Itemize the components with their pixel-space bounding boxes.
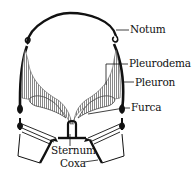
thorax-diagram: Notum Pleurodema Pleuron Furca Sternum C…	[0, 0, 192, 173]
leader-coxa	[84, 160, 98, 162]
label-pleuron: Pleuron	[135, 77, 175, 88]
label-notum: Notum	[130, 24, 165, 35]
pleurodema-left	[22, 50, 72, 124]
label-sternum: Sternum	[51, 145, 96, 156]
notum-shape	[27, 13, 116, 43]
label-pleurodema: Pleurodema	[129, 58, 191, 69]
label-coxa: Coxa	[60, 158, 86, 169]
label-furca: Furca	[131, 102, 161, 113]
